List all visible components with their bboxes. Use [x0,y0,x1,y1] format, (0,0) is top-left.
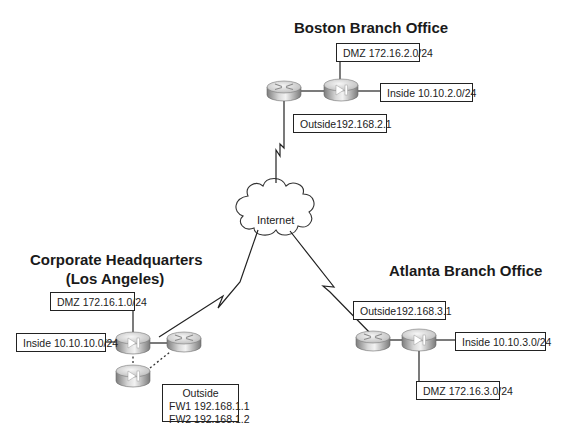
atlanta-router-icon [356,331,390,351]
hq-firewall-failover-icon [116,365,150,387]
hq-router-icon [167,332,201,352]
atlanta-outside-label: Outside192.168.3.1 [353,301,446,320]
internet-label: Internet [257,214,294,226]
hq-outside-label: Outside FW1 192.168.1.1 FW2 192.168.1.2 [162,384,239,422]
hq-title-line1: Corporate Headquarters [30,250,200,269]
atlanta-dmz-label: DMZ 172.16.3.0/24 [416,381,500,400]
hq-outside-line2: FW1 192.168.1.1 [169,400,232,413]
internet-cloud [236,179,314,236]
atlanta-inside-label: Inside 10.10.3.0/24 [455,332,546,351]
boston-site-title: Boston Branch Office [294,18,448,37]
boston-router-icon [267,81,301,101]
hq-outside-line3: FW2 192.168.1.2 [169,413,232,426]
hq-outside-line1: Outside [169,387,232,400]
atlanta-firewall-icon [402,329,436,351]
atlanta-site-title: Atlanta Branch Office [389,261,542,280]
hq-site-title: Corporate Headquarters (Los Angeles) [30,250,200,288]
network-diagram: Internet Boston Branch Office DMZ 172.16… [0,0,566,438]
boston-inside-label: Inside 10.10.2.0/24 [380,83,473,102]
hq-title-line2: (Los Angeles) [30,269,200,288]
boston-firewall-icon [324,79,358,101]
hq-inside-label: Inside 10.10.10.0/24 [16,333,106,352]
hq-dmz-label: DMZ 172.16.1.0/24 [50,292,135,311]
boston-dmz-label: DMZ 172.16.2.0/24 [336,43,420,62]
boston-outside-label: Outside192.168.2.1 [293,114,387,133]
link-boston-internet [276,87,284,183]
hq-firewall-primary-icon [116,332,150,354]
